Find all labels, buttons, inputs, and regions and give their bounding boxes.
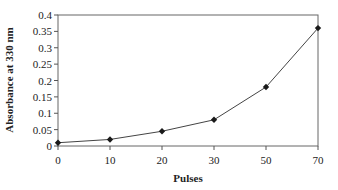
x-tick-label: 30 (209, 154, 221, 166)
x-tick-label: 0 (55, 154, 61, 166)
y-tick-label: 0.35 (33, 25, 53, 37)
x-tick-label: 20 (157, 154, 169, 166)
y-tick-label: 0.25 (33, 58, 53, 70)
y-tick-label: 0.05 (33, 124, 53, 136)
line-chart: 00.050.10.150.20.250.30.350.4 0102030507… (0, 0, 338, 190)
plot-frame (58, 15, 318, 146)
diamond-marker-icon (159, 128, 165, 134)
y-tick-label: 0.2 (38, 75, 52, 87)
y-axis-ticks: 00.050.10.150.20.250.30.350.4 (33, 9, 58, 152)
x-tick-label: 70 (313, 154, 325, 166)
x-tick-label: 10 (105, 154, 117, 166)
diamond-marker-icon (55, 140, 61, 146)
x-axis-ticks: 01020305070 (55, 146, 324, 166)
x-axis-title: Pulses (173, 172, 203, 184)
diamond-marker-icon (107, 136, 113, 142)
y-tick-label: 0.4 (38, 9, 52, 21)
y-tick-label: 0 (47, 140, 53, 152)
y-tick-label: 0.1 (38, 107, 52, 119)
data-series (55, 25, 321, 146)
y-axis-title: Absorbance at 330 nm (3, 27, 15, 132)
diamond-marker-icon (211, 117, 217, 123)
x-tick-label: 50 (261, 154, 273, 166)
series-line (58, 28, 318, 143)
y-tick-label: 0.15 (33, 91, 53, 103)
y-tick-label: 0.3 (38, 42, 52, 54)
